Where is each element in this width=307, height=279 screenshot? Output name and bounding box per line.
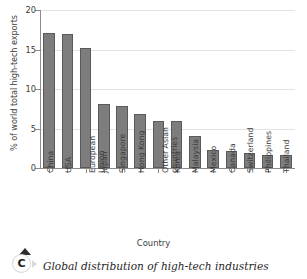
- caption-text: Global distribution of high-tech industr…: [43, 260, 269, 272]
- caption-badge: C: [8, 248, 42, 276]
- bar-chart: % of world total high-tech exports 05101…: [0, 0, 307, 240]
- y-tick-label: 15: [10, 45, 36, 55]
- x-axis-title: Country: [0, 238, 307, 248]
- y-tick-label: 0: [10, 163, 36, 173]
- y-tick-label: 10: [10, 84, 36, 94]
- x-tick-label: Thailand: [283, 173, 307, 182]
- bar: [62, 34, 74, 168]
- figure-caption: C Global distribution of high-tech indus…: [0, 252, 307, 279]
- y-tick-labels: 05101520: [10, 0, 36, 240]
- bar: [43, 33, 55, 168]
- badge-letter: C: [13, 255, 30, 272]
- y-tick-label: 20: [10, 5, 36, 15]
- y-tick-label: 5: [10, 124, 36, 134]
- chevron-right-icon: [32, 260, 37, 268]
- figure-high-tech-exports: % of world total high-tech exports 05101…: [0, 0, 307, 279]
- x-tick-labels: ChinaUSAEuropean UnionJapanSingaporeHong…: [40, 173, 295, 235]
- x-tick-label: USA: [65, 173, 81, 182]
- triangle-icon: [19, 248, 31, 255]
